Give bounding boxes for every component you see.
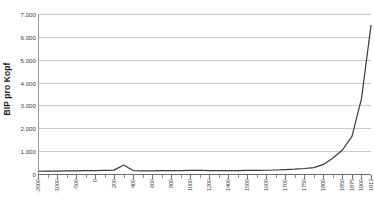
x-tick-label-text: 1750 [301, 179, 307, 191]
x-tick-label-text: 200 [111, 179, 117, 188]
chart-title [40, 0, 373, 7]
x-tick-label-text: 1875 [349, 179, 355, 191]
x-tick [162, 175, 163, 178]
y-axis-line [38, 14, 39, 175]
x-tick [86, 175, 87, 178]
x-tick-label-text: -500 [73, 179, 79, 190]
y-tick-label: 7.000 [12, 11, 36, 18]
x-tick-label-text: 1850 [339, 179, 345, 191]
x-tick [314, 175, 315, 178]
y-axis-tick-labels: 01.0002.0003.0004.0005.0006.0007.000 [12, 0, 38, 178]
x-tick-label-text: 1900 [358, 179, 364, 191]
x-tick [200, 175, 201, 178]
x-tick [181, 175, 182, 178]
x-tick-label-text: 1700 [282, 179, 288, 191]
x-axis-tick-labels: -2000-1000-50002004006008001000120014001… [38, 179, 371, 198]
y-axis-title-label: BIP pro Kopf [2, 63, 12, 116]
line-series [38, 14, 371, 174]
x-tick-label-text: 1000 [187, 179, 193, 191]
y-tick-label: 1.000 [12, 148, 36, 155]
x-tick-label-text: 600 [149, 179, 155, 188]
x-tick-label-text: -1000 [54, 179, 60, 193]
x-tick [333, 175, 334, 178]
y-tick-label: 3.000 [12, 102, 36, 109]
x-tick [257, 175, 258, 178]
x-tick-label-text: 800 [168, 179, 174, 188]
x-tick-label-text: 400 [130, 179, 136, 188]
x-tick-label-text: 1200 [206, 179, 212, 191]
y-tick-label: 4.000 [12, 79, 36, 86]
x-tick-label-text: 1400 [225, 179, 231, 191]
x-tick-label-text: 1600 [263, 179, 269, 191]
y-tick-label: 5.000 [12, 56, 36, 63]
x-tick [105, 175, 106, 178]
series-polyline [38, 25, 371, 171]
plot-area [38, 14, 371, 174]
x-tick [276, 175, 277, 178]
x-tick-label-text: -2000 [35, 179, 41, 193]
x-tick-label-text: 1500 [244, 179, 250, 191]
x-tick [67, 175, 68, 178]
x-tick [124, 175, 125, 178]
x-tick-label-text: 1800 [320, 179, 326, 191]
y-tick-label: 2.000 [12, 125, 36, 132]
y-tick-label: 0 [12, 171, 36, 178]
x-tick [143, 175, 144, 178]
y-tick-label: 6.000 [12, 33, 36, 40]
x-tick [48, 175, 49, 178]
x-tick [295, 175, 296, 178]
x-tick-label-text: 1913 [368, 179, 374, 191]
x-tick-label-text: 0 [92, 179, 98, 182]
x-tick [238, 175, 239, 178]
x-tick [219, 175, 220, 178]
